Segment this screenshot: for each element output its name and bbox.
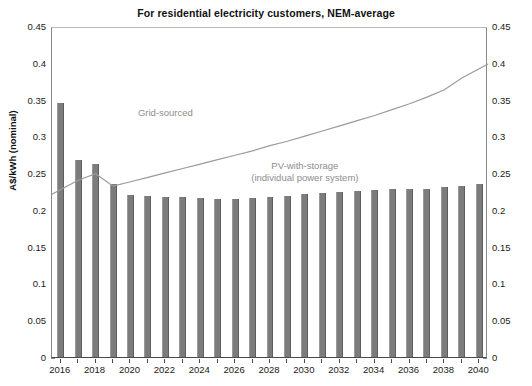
x-tick-mark [164,359,165,363]
y-tick-label-right-0.2: 0.2 [492,206,532,216]
x-tick-mark [252,359,253,363]
y-tick-label-right-0.1: 0.1 [492,279,532,289]
line-series-layer [52,28,486,357]
chart-container: For residential electricity customers, N… [0,0,532,386]
x-tick-mark [374,359,375,363]
y-tick-label-left-0.4: 0.4 [2,59,46,69]
y-tick-label-right-0.35: 0.35 [492,96,532,106]
x-tick-mark [304,359,305,363]
x-tick-mark [391,359,392,363]
y-tick-label-right-0.25: 0.25 [492,169,532,179]
grid-sourced-line [52,28,488,359]
x-tick-mark [217,359,218,363]
y-tick-label-left-0.25: 0.25 [2,169,46,179]
y-tick-label-right-0.05: 0.05 [492,316,532,326]
plot-area: Grid-sourcedPV-with-storage(individual p… [51,27,487,358]
y-tick-label-left-0.35: 0.35 [2,96,46,106]
y-tick-label-left-0.1: 0.1 [2,279,46,289]
x-tick-mark [443,359,444,363]
x-tick-mark [286,359,287,363]
chart-title: For residential electricity customers, N… [0,7,532,19]
y-tick-mark [51,358,55,359]
x-tick-mark [95,359,96,363]
y-tick-mark [483,358,487,359]
y-tick-label-left-0.15: 0.15 [2,243,46,253]
x-tick-mark [147,359,148,363]
x-tick-mark [461,359,462,363]
y-tick-label-left-0.3: 0.3 [2,132,46,142]
x-tick-mark [234,359,235,363]
y-tick-label-right-0.45: 0.45 [492,22,532,32]
x-tick-mark [426,359,427,363]
x-tick-mark [182,359,183,363]
y-tick-label-left-0: 0 [2,353,46,363]
y-tick-label-right-0.3: 0.3 [492,132,532,142]
x-tick-mark [339,359,340,363]
y-tick-label-left-0.05: 0.05 [2,316,46,326]
x-tick-mark [77,359,78,363]
y-tick-label-right-0.4: 0.4 [492,59,532,69]
x-tick-mark [356,359,357,363]
x-tick-mark [321,359,322,363]
x-tick-mark [269,359,270,363]
x-tick-mark [409,359,410,363]
y-tick-label-right-0.15: 0.15 [492,243,532,253]
x-tick-mark [112,359,113,363]
x-tick-mark [129,359,130,363]
y-tick-label-right-0: 0 [492,353,532,363]
x-tick-mark [199,359,200,363]
y-tick-label-left-0.45: 0.45 [2,22,46,32]
x-tick-label-2040: 2040 [458,364,498,375]
x-tick-mark [60,359,61,363]
y-tick-label-left-0.2: 0.2 [2,206,46,216]
x-tick-mark [478,359,479,363]
